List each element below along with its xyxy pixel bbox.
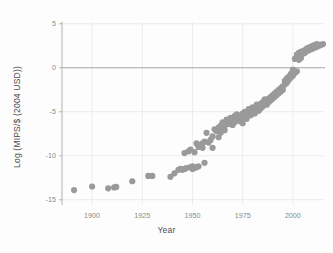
data-point <box>209 145 215 151</box>
scatter-plot-canvas: 50-5-10-1519001925195019752000 <box>0 0 333 253</box>
data-point <box>113 184 119 190</box>
chart-figure: 50-5-10-1519001925195019752000 Log (MIPS… <box>0 0 333 253</box>
data-point <box>199 145 205 151</box>
data-point <box>71 187 77 193</box>
x-tick-label: 1925 <box>134 211 150 220</box>
x-tick-label: 1950 <box>184 211 200 220</box>
y-axis-title: Log (MIPS/$ (2004 USD)) <box>12 57 22 177</box>
data-point <box>191 149 197 155</box>
data-point <box>222 127 228 133</box>
data-point <box>149 173 155 179</box>
data-point <box>195 163 201 169</box>
data-point <box>201 160 207 166</box>
y-tick-label: 5 <box>52 19 56 28</box>
y-tick-label: -10 <box>46 151 56 160</box>
x-tick-label: 1900 <box>84 211 100 220</box>
y-tick-label: 0 <box>52 63 56 72</box>
data-point <box>294 68 300 74</box>
scatter-series <box>71 41 326 193</box>
y-tick-label: -15 <box>46 195 56 204</box>
x-tick-label: 1975 <box>235 211 251 220</box>
y-tick-label: -5 <box>50 107 56 116</box>
data-point <box>129 178 135 184</box>
data-point <box>203 130 209 136</box>
data-point <box>105 185 111 191</box>
data-point <box>280 87 286 93</box>
data-point <box>89 183 95 189</box>
x-tick-label: 2000 <box>285 211 301 220</box>
data-point <box>320 41 326 47</box>
data-point <box>209 133 215 139</box>
x-axis-title: Year <box>0 225 333 235</box>
